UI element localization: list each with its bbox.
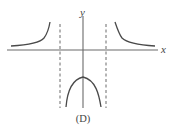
x-axis-label: x: [160, 43, 166, 55]
right-branch-curve: [115, 22, 155, 46]
graph: y x (D): [0, 0, 175, 127]
y-axis-label: y: [79, 6, 85, 18]
left-branch-curve: [11, 22, 50, 46]
figure-caption: (D): [76, 113, 91, 125]
